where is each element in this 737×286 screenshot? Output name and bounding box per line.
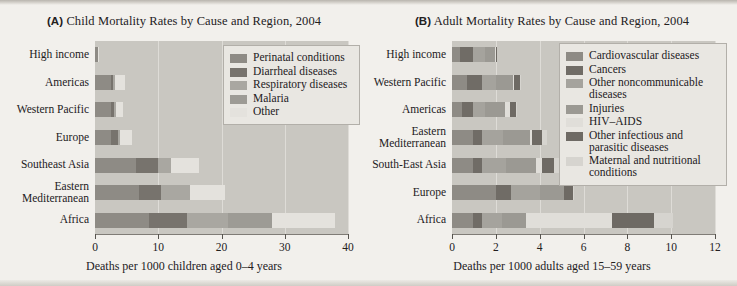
legend-label: Injuries <box>589 102 624 114</box>
x-axis-tick <box>285 234 286 239</box>
panel-a-axis-caption: Deaths per 1000 children aged 0–4 years <box>0 259 368 274</box>
legend-swatch-icon <box>230 108 247 117</box>
bar-segment <box>482 130 504 145</box>
bar-0 <box>452 47 497 62</box>
bar-segment <box>139 185 161 200</box>
bar-segment <box>612 213 654 228</box>
x-axis-tick-label: 8 <box>607 241 647 253</box>
bar-segment <box>462 102 473 117</box>
x-axis-tick <box>671 234 672 239</box>
legend-swatch-icon <box>230 54 247 63</box>
bar-segment <box>467 75 481 90</box>
bar-2 <box>452 102 517 117</box>
panel-b-legend: Cardiovascular diseasesCancersOther nonc… <box>559 43 727 186</box>
bar-segment <box>654 213 674 228</box>
bar-1 <box>452 75 521 90</box>
bar-3 <box>95 130 132 145</box>
x-axis-tick <box>222 234 223 239</box>
bar-segment <box>502 213 526 228</box>
bar-6 <box>95 213 335 228</box>
bar-segment <box>485 47 495 62</box>
bar-segment <box>95 213 149 228</box>
bar-segment <box>532 130 542 145</box>
legend-label: HIV–AIDS <box>589 115 642 127</box>
legend-item[interactable]: Cardiovascular diseases <box>566 49 719 61</box>
category-label: Europe <box>0 132 89 144</box>
category-label: High income <box>326 49 446 61</box>
x-axis-tick <box>584 234 585 239</box>
bar-segment <box>187 213 228 228</box>
x-axis-tick-label: 0 <box>432 241 472 253</box>
bar-segment <box>95 130 111 145</box>
bar-segment <box>98 47 100 62</box>
legend-item[interactable]: Diarrheal diseases <box>230 65 352 78</box>
legend-label: Other <box>253 105 279 118</box>
x-axis-tick-label: 30 <box>265 241 305 253</box>
legend-item[interactable]: Malaria <box>230 92 352 105</box>
x-axis-tick-label: 6 <box>564 241 604 253</box>
legend-label: Other infectious and parasitic diseases <box>589 129 719 153</box>
bar-segment <box>452 213 473 228</box>
bar-5 <box>452 185 574 200</box>
bar-segment <box>452 185 496 200</box>
bar-segment <box>542 158 554 173</box>
x-axis-tick <box>627 234 628 239</box>
bar-segment <box>120 130 131 145</box>
gridline <box>158 41 159 234</box>
panel-a-tag: (A) <box>47 15 63 27</box>
bar-segment <box>452 47 460 62</box>
legend-item[interactable]: HIV–AIDS <box>566 115 719 127</box>
bar-segment <box>171 158 199 173</box>
bar-4 <box>95 158 199 173</box>
bar-segment <box>460 47 473 62</box>
bar-segment <box>526 213 611 228</box>
bar-segment <box>516 102 517 117</box>
scan-edge-bottom <box>0 280 737 286</box>
x-axis-tick-label: 0 <box>75 241 115 253</box>
legend-item[interactable]: Other infectious and parasitic diseases <box>566 129 719 153</box>
x-axis-tick <box>715 234 716 239</box>
bar-segment <box>452 130 473 145</box>
panel-a-title: (A) Child Mortality Rates by Cause and R… <box>0 14 368 29</box>
bar-segment <box>136 158 158 173</box>
bar-6 <box>452 213 673 228</box>
category-label: South-East Asia <box>326 159 446 171</box>
bar-4 <box>452 158 560 173</box>
bar-segment <box>473 158 482 173</box>
bar-segment <box>116 102 124 117</box>
bar-segment <box>520 75 521 90</box>
legend-label: Maternal and nutritional conditions <box>589 154 719 178</box>
bar-segment <box>473 47 485 62</box>
x-axis-tick <box>452 234 453 239</box>
category-label: Americas <box>0 77 89 89</box>
bar-segment <box>503 130 529 145</box>
panel-b-tag: (B) <box>415 15 431 27</box>
legend-label: Malaria <box>253 92 289 105</box>
legend-item[interactable]: Other noncommunicable diseases <box>566 76 719 100</box>
legend-swatch-icon <box>566 79 583 88</box>
bar-segment <box>473 102 485 117</box>
bar-segment <box>473 130 482 145</box>
category-label: Africa <box>326 214 446 226</box>
panel-b-title-text: Adult Mortality Rates by Cause and Regio… <box>434 14 689 28</box>
legend-item[interactable]: Injuries <box>566 102 719 114</box>
x-axis-tick <box>158 234 159 239</box>
legend-label: Cancers <box>589 63 626 75</box>
category-label: Western Pacific <box>0 104 89 116</box>
bar-segment <box>473 213 482 228</box>
bar-segment <box>564 185 573 200</box>
category-label: Africa <box>0 214 89 226</box>
bar-segment <box>95 102 111 117</box>
x-axis-tick-label: 12 <box>695 241 735 253</box>
x-axis-tick <box>95 234 96 239</box>
legend-swatch-icon <box>566 66 583 75</box>
bar-segment <box>482 158 506 173</box>
legend-item[interactable]: Cancers <box>566 63 719 75</box>
legend-item[interactable]: Maternal and nutritional conditions <box>566 154 719 178</box>
category-label: High income <box>0 49 89 61</box>
bar-segment <box>149 213 187 228</box>
bar-segment <box>496 47 497 62</box>
legend-swatch-icon <box>566 105 583 114</box>
legend-label: Diarrheal diseases <box>253 65 337 78</box>
panel-a-title-text: Child Mortality Rates by Cause and Regio… <box>66 14 321 28</box>
